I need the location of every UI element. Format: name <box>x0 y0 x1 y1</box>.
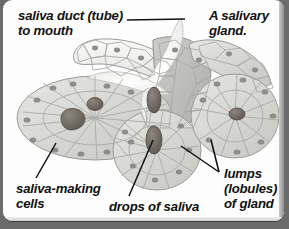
card-right-edge <box>279 0 284 221</box>
figure-frame: saliva duct (tube) to mouth A salivary g… <box>0 0 289 229</box>
saliva-drop-right-center <box>229 108 245 120</box>
label-drops-of-saliva: drops of saliva <box>109 199 199 214</box>
label-saliva-duct: saliva duct (tube) to mouth <box>18 8 123 38</box>
saliva-drop-left-large <box>61 108 85 130</box>
figure-card: saliva duct (tube) to mouth A salivary g… <box>3 0 284 221</box>
card-bottom-edge <box>3 217 284 221</box>
label-lumps-lobules: lumps (lobules) of gland <box>224 166 277 211</box>
leader-duct <box>127 19 185 20</box>
label-saliva-making-cells: saliva-making cells <box>16 181 101 211</box>
label-salivary-gland: A salivary gland. <box>209 8 269 38</box>
saliva-drop-left-small <box>87 98 103 111</box>
saliva-drop-mid-upper <box>147 87 161 113</box>
